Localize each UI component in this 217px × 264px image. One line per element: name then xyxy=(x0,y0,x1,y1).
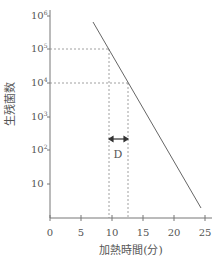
x-axis-title: 加熱時間(分) xyxy=(99,244,163,257)
svg-text:5: 5 xyxy=(78,227,84,238)
svg-text:0: 0 xyxy=(47,227,53,238)
svg-text:10: 10 xyxy=(31,178,44,189)
svg-text:20: 20 xyxy=(168,227,181,238)
svg-text:104: 104 xyxy=(31,76,48,88)
svg-text:15: 15 xyxy=(137,227,150,238)
survivor-chart: 106 105 104 103 102 10 0 5 10 15 20 25 D… xyxy=(0,0,217,264)
svg-text:105: 105 xyxy=(31,42,48,54)
svg-text:103: 103 xyxy=(31,110,48,122)
d-double-arrow-icon xyxy=(109,137,128,142)
y-axis-title: 生残菌数 xyxy=(3,82,17,126)
reference-lines xyxy=(50,49,128,218)
svg-text:106: 106 xyxy=(31,9,48,21)
svg-text:10: 10 xyxy=(106,227,119,238)
svg-text:25: 25 xyxy=(199,227,212,238)
x-tick-labels: 0 5 10 15 20 25 xyxy=(47,227,212,238)
y-tick-labels: 106 105 104 103 102 10 xyxy=(31,9,48,189)
d-label: D xyxy=(114,148,123,161)
svg-text:102: 102 xyxy=(31,143,48,155)
